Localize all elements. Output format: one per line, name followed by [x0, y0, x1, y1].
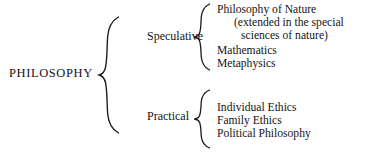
philosophy-root-label: PHILOSOPHY — [9, 66, 93, 81]
leaf-individual-ethics: Individual Ethics — [217, 101, 311, 114]
leaf-family-ethics: Family Ethics — [217, 114, 311, 127]
leaf-political-philosophy: Political Philosophy — [217, 127, 311, 140]
leaf-group-speculative: Philosophy of Nature (extended in the sp… — [217, 3, 344, 71]
curly-brace-icon-root — [97, 16, 121, 134]
leaf-sciences-of-nature: sciences of nature) — [217, 29, 344, 42]
curly-brace-icon-speculative — [192, 3, 212, 71]
leaf-group-practical: Individual Ethics Family Ethics Politica… — [217, 101, 311, 141]
curly-brace-icon-practical — [192, 89, 212, 149]
branch-label-practical: Practical — [147, 109, 189, 124]
leaf-mathematics: Mathematics — [217, 44, 344, 57]
leaf-philosophy-of-nature: Philosophy of Nature — [217, 3, 344, 16]
philosophy-division-diagram: PHILOSOPHY Speculative Practical Philoso… — [0, 0, 368, 154]
leaf-metaphysics: Metaphysics — [217, 57, 344, 70]
leaf-extended-in-the-special: (extended in the special — [217, 16, 344, 29]
